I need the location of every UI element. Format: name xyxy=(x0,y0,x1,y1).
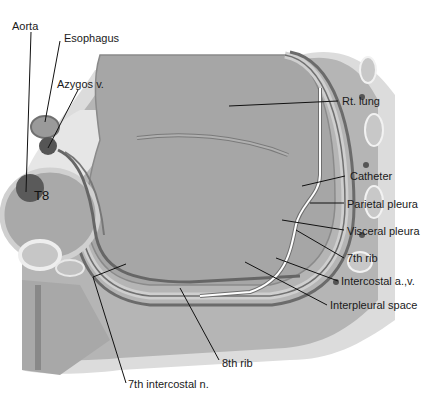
label-t8: T8 xyxy=(34,190,49,202)
label-visceral-pleura: Visceral pleura xyxy=(347,225,420,237)
right-lung xyxy=(87,55,335,285)
label-catheter: Catheter xyxy=(350,170,392,182)
label-azygos: Azygos v. xyxy=(57,78,104,90)
label-esophagus: Esophagus xyxy=(64,32,119,44)
label-parietal-pleura: Parietal pleura xyxy=(347,198,418,210)
label-rt-lung: Rt. lung xyxy=(342,95,380,107)
label-7th-intercostal-n: 7th intercostal n. xyxy=(128,378,209,390)
label-aorta: Aorta xyxy=(12,20,38,32)
azygos-vein xyxy=(39,137,57,155)
label-8th-rib: 8th rib xyxy=(222,357,253,369)
label-7th-rib: 7th rib xyxy=(347,252,378,264)
anatomy-diagram: Aorta Esophagus Azygos v. Rt. lung Cathe… xyxy=(0,0,433,410)
label-interpleural-space: Interpleural space xyxy=(330,299,417,311)
spinal-cord xyxy=(20,241,60,269)
label-intercostal-av: Intercostal a.,v. xyxy=(341,275,415,287)
